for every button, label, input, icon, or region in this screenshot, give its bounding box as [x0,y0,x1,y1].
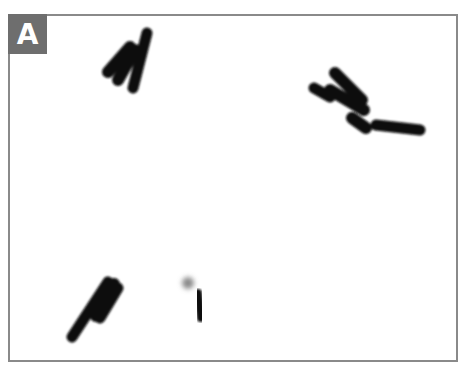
micrograph [0,0,476,372]
top-right-cluster [314,73,420,130]
bottom-center-cell [182,277,201,318]
bottom-left-cluster [72,282,118,337]
top-left-cluster [108,33,147,88]
panel-label: A [8,14,47,54]
